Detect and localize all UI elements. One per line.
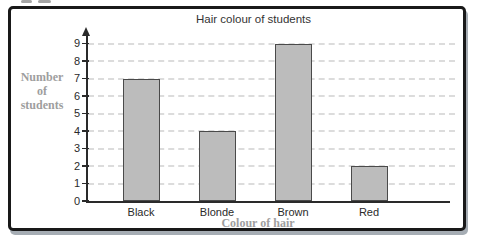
y-tick-label-0: 0 [56, 195, 80, 207]
y-tick-label-8: 8 [56, 55, 80, 67]
y-tick-label-2: 2 [56, 160, 80, 172]
y-tick-mark-5 [82, 113, 89, 115]
gridline-y9 [88, 43, 455, 45]
x-axis-caption: Colour of hair [158, 216, 358, 231]
chart-figure: Hair colour of students 0123456789 Black… [0, 0, 480, 243]
y-tick-mark-3 [82, 148, 89, 150]
y-axis-caption-line: students [10, 98, 74, 112]
y-tick-mark-2 [82, 165, 89, 167]
y-tick-mark-8 [82, 60, 89, 62]
y-tick-label-9: 9 [56, 37, 80, 49]
bar-black [123, 79, 160, 202]
y-tick-mark-6 [82, 95, 89, 97]
chart-title: Hair colour of students [196, 13, 311, 25]
cropped-text-fragment [38, 0, 51, 3]
y-tick-label-1: 1 [56, 177, 80, 189]
y-tick-label-3: 3 [56, 142, 80, 154]
bar-red [351, 166, 388, 201]
x-axis-line [86, 201, 450, 203]
gridline-y8 [88, 60, 455, 62]
y-tick-mark-1 [82, 183, 89, 185]
y-axis-caption-line: of [10, 84, 74, 98]
y-tick-mark-0 [82, 200, 89, 202]
y-axis-line [86, 33, 88, 203]
y-tick-mark-7 [82, 78, 89, 80]
cropped-text-fragment [21, 0, 32, 3]
y-tick-label-4: 4 [56, 125, 80, 137]
y-axis-caption-line: Number [10, 70, 74, 84]
bar-brown [275, 44, 312, 202]
y-tick-mark-4 [82, 130, 89, 132]
y-axis-caption: Number of students [10, 70, 74, 112]
bar-blonde [199, 131, 236, 201]
y-tick-mark-9 [82, 43, 89, 45]
